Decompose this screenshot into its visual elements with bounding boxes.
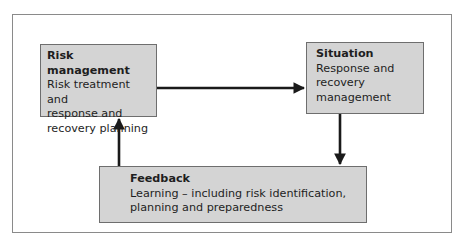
node-risk-management: Risk management Risk treatment and respo…: [40, 44, 157, 117]
node-body-line: Risk treatment and: [47, 78, 150, 107]
node-body-line: recovery planning: [47, 122, 150, 137]
node-body-line: management: [316, 91, 417, 106]
node-title: Feedback: [130, 172, 360, 187]
node-feedback: Feedback Learning – including risk ident…: [99, 166, 367, 223]
node-body-line: recovery: [316, 76, 417, 91]
node-situation: Situation Response and recovery manageme…: [306, 42, 424, 114]
node-body-line: Learning – including risk identification…: [130, 187, 360, 202]
node-body-line: planning and preparedness: [130, 201, 360, 216]
node-body-line: response and: [47, 107, 150, 122]
node-body-line: Response and: [316, 62, 417, 77]
node-title: Risk management: [47, 49, 150, 78]
node-title: Situation: [316, 47, 417, 62]
